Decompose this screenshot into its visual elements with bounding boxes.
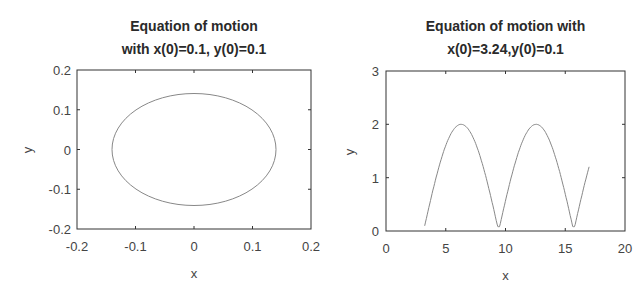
right-ytick: 2	[372, 117, 379, 132]
right-xtick: 10	[498, 241, 512, 256]
right-trajectory-curve	[425, 124, 589, 226]
right-ytick: 0	[372, 224, 379, 239]
right-xtick: 0	[382, 241, 389, 256]
right-ylabel: y	[342, 148, 357, 155]
right-xtick: 20	[618, 241, 632, 256]
right-xtick: 5	[442, 241, 449, 256]
right-chart-plot: 3 2 1 0 0 5 10 15 20 x y	[0, 0, 644, 300]
right-xtick: 15	[558, 241, 572, 256]
right-ticks	[386, 71, 625, 231]
right-axes-box	[386, 71, 625, 231]
right-chart-panel: Equation of motion with x(0)=3.24,y(0)=0…	[0, 0, 644, 300]
right-ytick: 3	[372, 64, 379, 79]
right-ytick: 1	[372, 171, 379, 186]
right-xlabel: x	[502, 268, 509, 283]
